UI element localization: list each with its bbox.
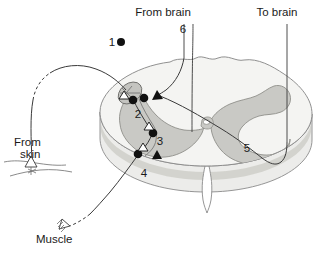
- label-number-5: 5: [244, 142, 250, 154]
- label-number-3: 3: [157, 135, 163, 147]
- neuromuscular-junction-icon: [57, 219, 70, 232]
- label-to-brain: To brain: [257, 6, 298, 18]
- skin-line-lower: [10, 170, 72, 176]
- synapse-dot-2a: [129, 96, 138, 105]
- label-from-skin-line1: From: [14, 136, 41, 148]
- label-number-6: 6: [180, 23, 186, 35]
- diagram-canvas: From brain To brain From skin Muscle 1 2…: [0, 0, 327, 255]
- synapse-dot-2b: [140, 94, 149, 103]
- afferent-axon-dashed-gap: [33, 73, 50, 100]
- label-number-2: 2: [135, 108, 141, 120]
- label-muscle: Muscle: [36, 233, 72, 245]
- synapse-dot-axon-1: [117, 38, 125, 46]
- label-from-skin-line2: skin: [20, 148, 40, 160]
- label-number-4: 4: [141, 167, 148, 179]
- motor-axon-dashed: [70, 214, 90, 226]
- label-number-1: 1: [109, 36, 115, 48]
- ventral-median-fissure: [202, 166, 212, 213]
- label-from-brain: From brain: [135, 6, 191, 18]
- spinal-cord-reflex-arc-figure: From brain To brain From skin Muscle 1 2…: [0, 0, 327, 255]
